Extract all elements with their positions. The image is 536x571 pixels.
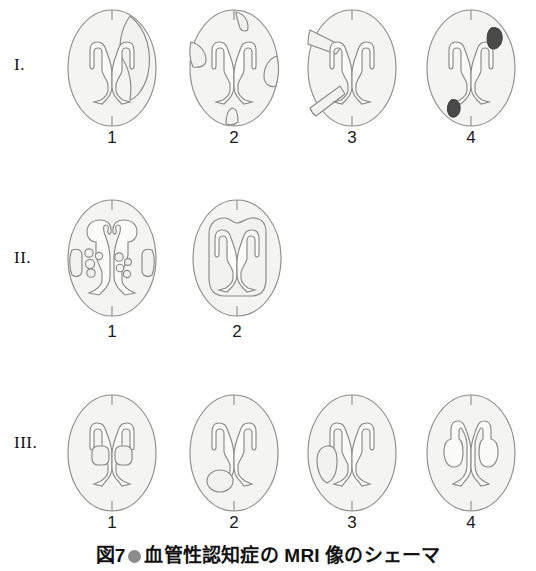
panel-number: 4: [412, 513, 530, 533]
panel-number: 4: [412, 128, 530, 148]
figure-row-1: I. 1: [0, 0, 536, 175]
panel-I-2-multiple-cortical-infarcts: 2: [175, 4, 293, 152]
figure-caption: 図7血管性認知症の MRI 像のシェーマ: [0, 540, 536, 567]
panel-I-4-hemorrhagic-lesions: 4: [412, 4, 530, 152]
panel-III-4-enlarged-ventricles: 4: [412, 389, 530, 537]
panel-I-3-wedge-shaped-infarcts: 3: [293, 4, 411, 152]
caption-text: 血管性認知症の MRI 像のシェーマ: [144, 545, 440, 566]
panel-number: 2: [175, 513, 293, 533]
panel-number: 2: [178, 322, 296, 342]
panel-III-1-bilateral-thalamic-infarcts: 1: [53, 389, 171, 537]
caption-prefix: 図7: [96, 545, 126, 566]
panel-number: 1: [53, 513, 171, 533]
panel-number: 3: [293, 128, 411, 148]
figure-row-3: III. 1 2: [0, 385, 536, 540]
panel-I-1-large-territorial-infarct: 1: [53, 4, 171, 152]
panel-number: 2: [175, 128, 293, 148]
panel-III-3-single-lateral-infarct: 3: [293, 389, 411, 537]
panel-II-1-multiple-lacunar-infarcts: 1: [53, 194, 171, 342]
figure-vascular-dementia-mri-schema: I. 1: [0, 0, 536, 571]
figure-row-2: II. 1: [0, 190, 536, 355]
panel-II-2-periventricular-leukoaraiosis: 2: [178, 194, 296, 342]
panel-number: 3: [293, 513, 411, 533]
panel-number: 1: [53, 128, 171, 148]
filled-circle-bullet-icon: [128, 550, 141, 563]
panel-number: 1: [53, 322, 171, 342]
panel-III-2-single-strategic-infarct: 2: [175, 389, 293, 537]
